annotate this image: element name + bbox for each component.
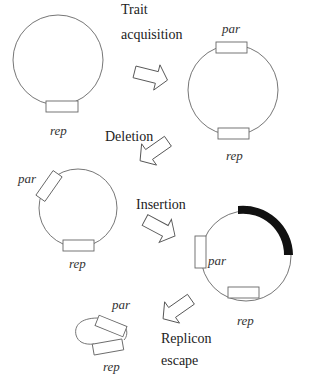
step-trait-label-1: Trait	[121, 2, 148, 17]
step-escape-label-1: Replicon	[161, 331, 212, 346]
par-label: par	[111, 297, 131, 312]
inserted-segment	[238, 206, 293, 255]
par-gene-box	[36, 171, 62, 202]
rep-gene-box	[218, 128, 249, 139]
step-escape-label-2: escape	[161, 353, 198, 368]
rep-label: rep	[69, 256, 86, 271]
plasmid-4: par rep	[195, 206, 293, 328]
par-label: par	[17, 171, 37, 186]
rep-label: rep	[50, 123, 67, 138]
step-trait-label-2: acquisition	[121, 27, 182, 42]
par-gene-box	[195, 236, 206, 268]
step-insertion-label: Insertion	[136, 197, 186, 212]
plasmid-evolution-diagram: rep Trait acquisition par rep Deletion p…	[0, 0, 309, 392]
par-label: par	[207, 253, 227, 268]
rep-gene-box	[92, 339, 123, 355]
rep-gene-box	[228, 287, 259, 298]
rep-label: rep	[237, 313, 254, 328]
arrow-trait-icon	[131, 59, 170, 92]
plasmid-2: par rep	[188, 21, 278, 163]
par-gene-box	[95, 315, 127, 336]
arrow-escape-icon	[156, 289, 199, 330]
rep-gene-box	[46, 101, 78, 112]
arrow-insertion-icon	[139, 209, 181, 248]
rep-label: rep	[226, 148, 243, 163]
rep-label: rep	[103, 359, 120, 374]
step-deletion-label: Deletion	[105, 129, 153, 144]
plasmid-3: par rep	[17, 169, 117, 271]
plasmid-1: rep	[13, 15, 103, 138]
plasmid-5: par rep	[76, 297, 131, 374]
par-label: par	[221, 21, 241, 36]
rep-gene-box	[63, 240, 94, 251]
par-gene-box	[216, 42, 247, 53]
